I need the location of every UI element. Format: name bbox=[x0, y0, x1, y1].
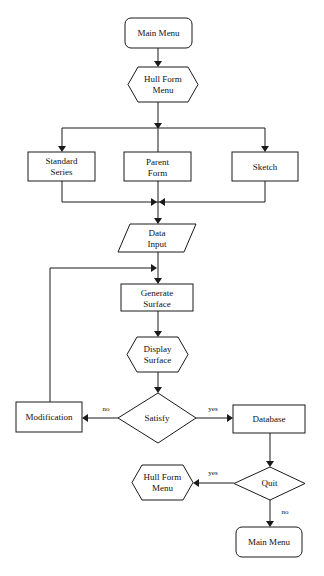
node-label: Modification bbox=[26, 412, 73, 422]
node-label: Main Menu bbox=[137, 28, 180, 38]
arrowhead bbox=[266, 461, 274, 467]
arrowhead bbox=[266, 521, 274, 527]
node-label: Series bbox=[51, 167, 73, 177]
node-label: Form bbox=[148, 168, 168, 178]
arrowhead bbox=[151, 264, 157, 272]
edge-label-no: no bbox=[282, 508, 290, 516]
node-standard-series: Standard Series bbox=[28, 152, 95, 181]
arrowhead bbox=[154, 387, 162, 393]
node-label: Data bbox=[149, 228, 166, 238]
node-label: Satisfy bbox=[144, 413, 170, 423]
flowchart: no yes yes no Main Menu Hull Form Menu S… bbox=[0, 0, 324, 576]
node-label: Quit bbox=[261, 478, 278, 488]
edge-label-no: no bbox=[103, 405, 111, 413]
node-label: Parent bbox=[146, 157, 169, 167]
node-label: Main Menu bbox=[248, 537, 291, 547]
arrowhead bbox=[261, 146, 269, 152]
node-display-surface: Display Surface bbox=[127, 337, 188, 372]
node-database: Database bbox=[233, 405, 305, 433]
node-sketch: Sketch bbox=[232, 152, 298, 181]
node-generate-surface: Generate Surface bbox=[121, 284, 193, 311]
arrowhead bbox=[193, 479, 199, 487]
node-main-menu-top: Main Menu bbox=[125, 18, 192, 48]
node-label: Surface bbox=[144, 355, 171, 365]
arrowhead bbox=[154, 61, 162, 67]
node-hull-form-menu-top: Hull Form Menu bbox=[128, 67, 198, 102]
node-label: Display bbox=[144, 344, 172, 354]
node-main-menu-bottom: Main Menu bbox=[236, 527, 302, 557]
node-quit: Quit bbox=[234, 467, 305, 500]
arrowhead bbox=[58, 146, 66, 152]
node-label: Surface bbox=[143, 299, 170, 309]
node-label: Sketch bbox=[253, 162, 278, 172]
node-label: Input bbox=[148, 239, 167, 249]
node-label: Standard bbox=[46, 156, 78, 166]
arrowhead bbox=[154, 278, 162, 284]
node-label: Hull Form bbox=[144, 74, 182, 84]
node-label: Menu bbox=[153, 85, 174, 95]
arrowhead bbox=[227, 414, 233, 422]
arrowhead bbox=[154, 218, 162, 224]
node-parent-form: Parent Form bbox=[124, 152, 191, 181]
arrowhead bbox=[154, 331, 162, 337]
edge-label-yes: yes bbox=[208, 405, 218, 413]
arrowhead bbox=[159, 198, 165, 206]
node-label: Database bbox=[253, 414, 286, 424]
node-modification: Modification bbox=[16, 402, 82, 432]
edge-label-yes: yes bbox=[208, 469, 218, 477]
node-label: Generate bbox=[141, 288, 173, 298]
node-label: Hull Form bbox=[144, 472, 182, 482]
node-data-input: Data Input bbox=[118, 224, 196, 252]
node-satisfy: Satisfy bbox=[118, 393, 196, 443]
node-hull-form-menu-bottom: Hull Form Menu bbox=[132, 465, 193, 500]
arrowhead bbox=[151, 198, 157, 206]
node-label: Menu bbox=[152, 483, 173, 493]
arrowhead bbox=[82, 414, 88, 422]
